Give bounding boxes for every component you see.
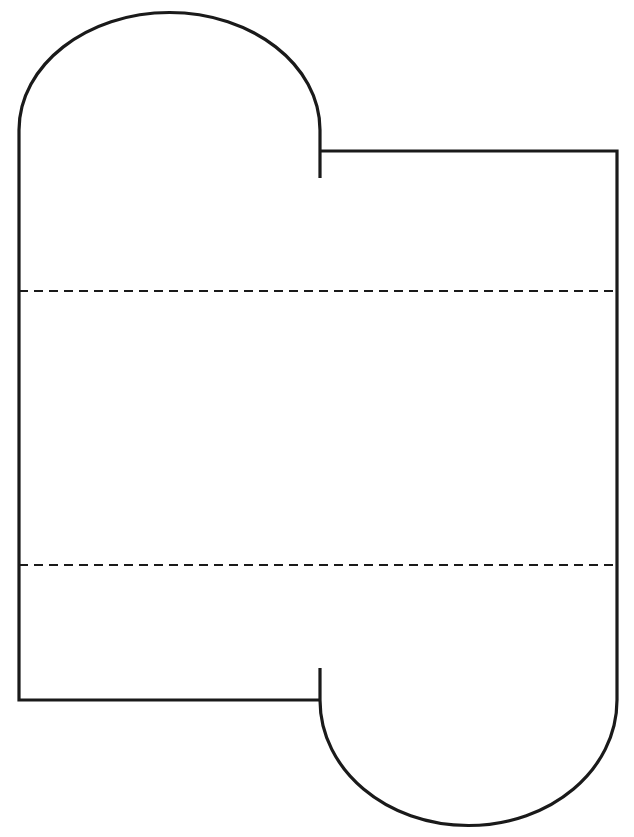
- canvas-background: [0, 0, 634, 837]
- pattern-canvas: [0, 0, 634, 837]
- pattern-diagram: [0, 0, 634, 837]
